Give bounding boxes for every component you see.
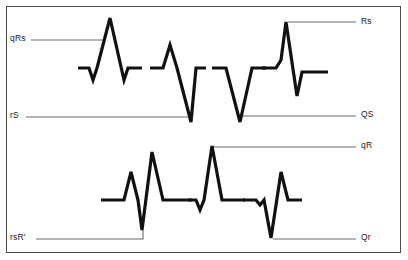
- label-rS: rS: [10, 111, 19, 120]
- waveform-rsR: [101, 152, 192, 230]
- label-Rs: Rs: [361, 17, 372, 26]
- waveform-rS: [150, 45, 206, 122]
- waveform-QS: [212, 68, 266, 122]
- label-QS: QS: [361, 110, 374, 119]
- waveforms-group: [78, 18, 328, 238]
- ecg-figure: qRs rS Rs QS qR rsR' Qr: [0, 0, 408, 260]
- waveform-Rs: [262, 22, 328, 96]
- waveform-qR: [188, 146, 245, 210]
- ecg-waveform-canvas: [0, 0, 408, 260]
- waveform-Qr: [243, 172, 302, 238]
- label-qR: qR: [361, 141, 372, 150]
- label-Qr: Qr: [361, 233, 371, 242]
- label-qRs: qRs: [10, 34, 26, 43]
- rsR-leader-line: [36, 230, 143, 239]
- label-rsR: rsR': [10, 233, 26, 242]
- waveform-qRs: [78, 18, 142, 80]
- leader-lines-group: [26, 22, 356, 239]
